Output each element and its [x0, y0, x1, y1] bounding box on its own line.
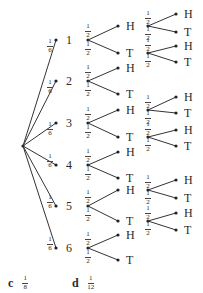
- denominator: 2: [86, 157, 90, 164]
- second-coin-branch: [148, 213, 176, 221]
- numerator: 1: [86, 106, 90, 113]
- node-dot: [174, 144, 177, 147]
- coin-outcome-label: H: [126, 146, 135, 158]
- numerator: 1: [146, 174, 150, 181]
- denominator: 2: [86, 50, 90, 57]
- coin-outcome-label: T: [126, 131, 133, 143]
- numerator: 1: [86, 207, 90, 214]
- probability-fraction: 12: [144, 37, 152, 53]
- probability-fraction: 16: [46, 38, 54, 54]
- numerator: 1: [89, 275, 93, 282]
- second-coin-outcome-label: T: [184, 192, 191, 204]
- coin-branch: [88, 123, 118, 137]
- numerator: 1: [146, 10, 150, 17]
- node-dot: [116, 188, 119, 191]
- probability-fraction: 16: [46, 194, 54, 210]
- numerator: 1: [146, 37, 150, 44]
- node-dot: [116, 92, 119, 95]
- second-coin-outcome-label: T: [184, 224, 191, 236]
- numerator: 1: [86, 148, 90, 155]
- coin-outcome-label: H: [126, 184, 135, 196]
- node-dot: [174, 44, 177, 47]
- probability-fraction: 12: [84, 148, 92, 164]
- denominator: 6: [48, 203, 52, 210]
- numerator: 1: [146, 94, 150, 101]
- numerator: 1: [86, 23, 90, 30]
- numerator: 1: [48, 236, 52, 243]
- coin-branch: [88, 26, 118, 40]
- probability-fraction: 12: [84, 189, 92, 205]
- node-dot: [174, 128, 177, 131]
- coin-branch: [88, 165, 118, 178]
- numerator: 1: [146, 110, 150, 117]
- second-coin-outcome-label: T: [184, 56, 191, 68]
- denominator: 6: [48, 47, 52, 54]
- denominator: 6: [48, 88, 52, 95]
- coin-branch: [88, 110, 118, 123]
- second-coin-branch: [148, 26, 176, 32]
- node-dot: [174, 178, 177, 181]
- probability-fraction: 12: [144, 137, 152, 153]
- coin-branch: [88, 68, 118, 81]
- coin-branch: [88, 190, 118, 206]
- second-coin-outcome-label: T: [184, 26, 191, 38]
- node-dot: [116, 233, 119, 236]
- node-dot: [116, 24, 119, 27]
- node-dot: [116, 150, 119, 153]
- node-dot: [174, 12, 177, 15]
- second-coin-branch: [148, 130, 176, 137]
- denominator: 2: [86, 216, 90, 223]
- numerator: 1: [146, 221, 150, 228]
- probability-fraction: 12: [84, 231, 92, 247]
- die-outcome-label: 5: [66, 200, 72, 212]
- denominator: 2: [146, 230, 150, 237]
- denominator: 2: [146, 62, 150, 69]
- second-coin-outcome-label: H: [184, 40, 193, 52]
- node-dot: [116, 176, 119, 179]
- node-dot: [116, 219, 119, 222]
- numerator: 1: [86, 41, 90, 48]
- probability-tree-diagram: [0, 0, 203, 293]
- answer-c: c 1 8: [8, 275, 29, 291]
- coin-outcome-label: T: [126, 47, 133, 59]
- numerator: 1: [146, 205, 150, 212]
- denominator: 2: [86, 133, 90, 140]
- die-outcome-label: 6: [66, 242, 72, 254]
- coin-branch: [88, 40, 118, 53]
- second-coin-branch: [148, 14, 176, 26]
- probability-fraction: 12: [144, 174, 152, 190]
- denominator: 2: [86, 258, 90, 265]
- probability-fraction: 12: [144, 121, 152, 137]
- second-coin-branch: [148, 46, 176, 53]
- node-dot: [174, 30, 177, 33]
- denominator: 2: [86, 32, 90, 39]
- node-dot: [174, 111, 177, 114]
- denominator: 2: [86, 175, 90, 182]
- coin-outcome-label: T: [126, 88, 133, 100]
- answer-d: d 1 12: [72, 275, 95, 291]
- numerator: 1: [86, 124, 90, 131]
- probability-fraction: 12: [84, 23, 92, 39]
- denominator: 6: [48, 130, 52, 137]
- node-dot: [116, 258, 119, 261]
- denominator: 8: [24, 284, 28, 291]
- denominator: 2: [86, 240, 90, 247]
- node-dot: [116, 108, 119, 111]
- node-dot: [174, 228, 177, 231]
- second-coin-outcome-label: H: [184, 174, 193, 186]
- denominator: 2: [86, 91, 90, 98]
- numerator: 1: [146, 26, 150, 33]
- probability-fraction: 16: [46, 236, 54, 252]
- answer-fraction: 1 12: [87, 275, 95, 291]
- numerator: 1: [86, 82, 90, 89]
- probability-fraction: 12: [84, 124, 92, 140]
- answer-letter: d: [72, 276, 79, 291]
- die-outcome-label: 3: [66, 117, 72, 129]
- second-coin-branch: [148, 110, 176, 113]
- answer-fraction: 1 8: [21, 275, 29, 291]
- numerator: 1: [146, 121, 150, 128]
- node-dot: [54, 121, 57, 124]
- probability-fraction: 12: [84, 106, 92, 122]
- second-coin-branch: [148, 137, 176, 146]
- answer-letter: c: [8, 276, 13, 291]
